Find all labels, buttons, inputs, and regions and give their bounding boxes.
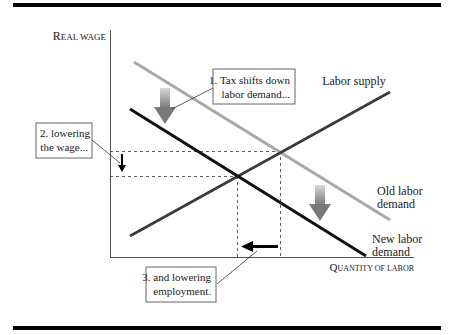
svg-text:2. lowering: 2. lowering: [40, 127, 91, 139]
new-demand-label-2: demand: [372, 245, 410, 259]
new-demand-label: New labor: [372, 232, 422, 246]
wage-down-arrow-icon: [118, 154, 126, 172]
bottom-rule: [13, 326, 441, 330]
svg-text:3. and lowering: 3. and lowering: [142, 271, 211, 283]
shift-down-arrow-icon: [309, 185, 331, 221]
shift-down-arrow-icon: [154, 88, 176, 124]
svg-text:1. Tax shifts down: 1. Tax shifts down: [209, 74, 290, 86]
labor-supply-label: Labor supply: [322, 74, 386, 88]
callout-3-lowering-employment: 3. and lowering employment.: [142, 267, 216, 302]
callout-1-tax-shifts-demand: 1. Tax shifts down labor demand...: [209, 69, 295, 104]
old-demand-label-2: demand: [377, 197, 415, 211]
svg-text:employment.: employment.: [153, 285, 211, 297]
employment-left-arrow-icon: [241, 241, 278, 252]
svg-text:the wage...: the wage...: [40, 141, 88, 153]
svg-text:labor demand...: labor demand...: [222, 88, 291, 100]
callout-leaders: [92, 88, 257, 284]
old-demand-label: Old labor: [377, 184, 423, 198]
labor-tax-diagram: REAL WAGE QUANTITY OF LABOR: [0, 0, 451, 335]
callout-2-lowering-wage: 2. lowering the wage...: [36, 123, 92, 158]
top-rule: [13, 3, 441, 7]
x-axis-label: QUANTITY OF LABOR: [329, 261, 414, 273]
y-axis-label: REAL WAGE: [53, 29, 107, 43]
